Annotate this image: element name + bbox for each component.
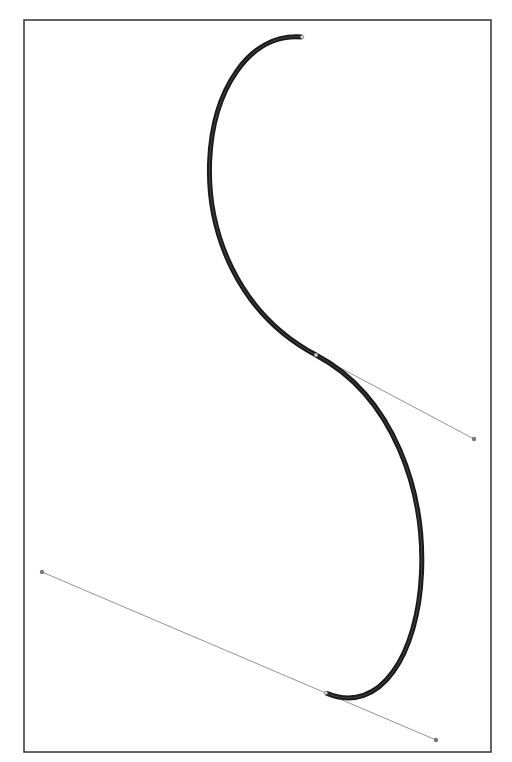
- mid-anchor[interactable]: [314, 353, 318, 357]
- bezier-path-highlight: [209, 37, 421, 698]
- start-anchor[interactable]: [300, 35, 304, 39]
- bezier-path[interactable]: [209, 37, 421, 698]
- end-anchor[interactable]: [324, 691, 328, 695]
- artboard-frame: [24, 20, 491, 752]
- bezier-diagram-canvas: [0, 0, 512, 762]
- anchor-points: [300, 35, 328, 695]
- end-handle-end-point[interactable]: [434, 738, 438, 742]
- handle-endpoints: [40, 353, 476, 742]
- mid-handle-end-point[interactable]: [472, 437, 476, 441]
- handle-lines: [42, 355, 474, 740]
- end-handle-start-point[interactable]: [40, 570, 44, 574]
- end-handle-line: [42, 572, 436, 740]
